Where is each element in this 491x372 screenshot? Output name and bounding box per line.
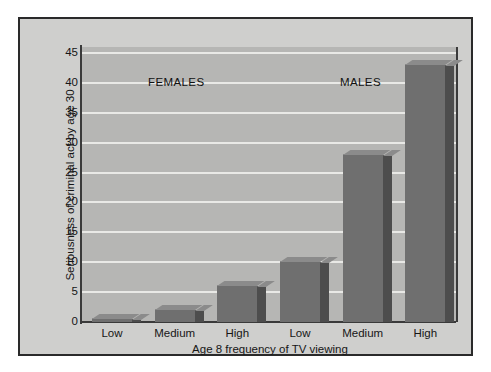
- bar-side-face: [195, 310, 204, 322]
- gridline-10: [82, 261, 456, 263]
- bar-5-high: [405, 65, 445, 322]
- gridline-40: [82, 82, 456, 84]
- y-tick-0: 0: [44, 316, 78, 328]
- x-tick-4-medium: Medium: [342, 327, 383, 339]
- y-tick-45: 45: [44, 47, 78, 59]
- gridline-5: [82, 291, 456, 293]
- bar-face: [405, 64, 445, 322]
- x-tick-0-low: Low: [101, 327, 122, 339]
- bar-face: [155, 309, 195, 322]
- gridline-20: [82, 201, 456, 203]
- x-tick-5-high: High: [414, 327, 438, 339]
- group-label-females: FEMALES: [148, 76, 204, 88]
- y-axis-title: Seriousness of criminal act by age 30: [64, 65, 76, 305]
- bar-2-high: [217, 286, 257, 322]
- chart-figure-frame: 051015202530354045 Seriousness of crimin…: [18, 17, 473, 356]
- x-tick-2-high: High: [226, 327, 250, 339]
- plot-area: FEMALES MALES: [82, 47, 458, 322]
- x-axis-title: Age 8 frequency of TV viewing: [82, 343, 458, 355]
- bar-0-low: [92, 319, 132, 322]
- bar-1-medium: [155, 310, 195, 322]
- group-label-males: MALES: [340, 76, 381, 88]
- gridline-25: [82, 172, 456, 174]
- x-axis-tick-labels: LowMediumHighLowMediumHigh: [82, 327, 458, 343]
- bar-side-face: [445, 65, 454, 322]
- x-tick-1-medium: Medium: [154, 327, 195, 339]
- bar-4-medium: [343, 155, 383, 322]
- gridline-35: [82, 112, 456, 114]
- bar-top-face: [155, 305, 202, 310]
- bar-top-face: [343, 150, 390, 155]
- bar-face: [280, 261, 320, 322]
- bar-side-face: [320, 262, 329, 322]
- bar-3-low: [280, 262, 320, 322]
- x-tick-3-low: Low: [289, 327, 310, 339]
- bar-side-face: [383, 155, 392, 322]
- gridline-45: [82, 52, 456, 54]
- gridline-30: [82, 142, 456, 144]
- gridline-15: [82, 231, 456, 233]
- bar-side-face: [257, 286, 266, 322]
- bar-face: [217, 285, 257, 322]
- bar-face: [343, 154, 383, 322]
